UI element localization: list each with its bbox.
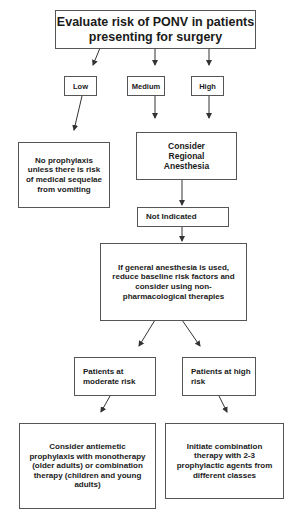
risk-low-label: Low	[73, 82, 88, 91]
general-anesthesia-text: If general anesthesia is used, reduce ba…	[107, 263, 240, 301]
moderate-risk-text: Patients at moderate risk	[83, 367, 155, 386]
general-anesthesia-box: If general anesthesia is used, reduce ba…	[100, 243, 247, 321]
consider-regional-box: Consider Regional Anesthesia	[136, 132, 237, 180]
evaluate-risk-box: Evaluate risk of PONV in patients presen…	[55, 10, 256, 49]
not-indicated-text: Not Indicated	[146, 212, 197, 222]
no-prophylaxis-box: No prophylaxis unless there is risk of m…	[18, 142, 110, 208]
consider-regional-text: Consider Regional Anesthesia	[151, 141, 222, 172]
risk-high-box: High	[191, 76, 224, 96]
no-prophylaxis-text: No prophylaxis unless there is risk of m…	[23, 156, 105, 194]
evaluate-risk-text: Evaluate risk of PONV in patients presen…	[56, 15, 255, 45]
not-indicated-box: Not Indicated	[137, 207, 229, 227]
risk-low-box: Low	[64, 76, 97, 96]
moderate-outcome-text: Consider antiemetic prophylaxis with mon…	[26, 442, 149, 490]
risk-high-label: High	[199, 82, 216, 91]
high-outcome-box: Initiate combination therapy with 2-3 pr…	[165, 423, 284, 499]
high-risk-text: Patients at high risk	[191, 367, 255, 386]
high-outcome-text: Initiate combination therapy with 2-3 pr…	[172, 442, 277, 480]
risk-medium-label: Medium	[132, 82, 160, 91]
moderate-outcome-box: Consider antiemetic prophylaxis with mon…	[19, 423, 156, 509]
high-risk-box: Patients at high risk	[182, 357, 256, 396]
moderate-risk-box: Patients at moderate risk	[74, 357, 156, 396]
risk-medium-box: Medium	[127, 76, 165, 96]
